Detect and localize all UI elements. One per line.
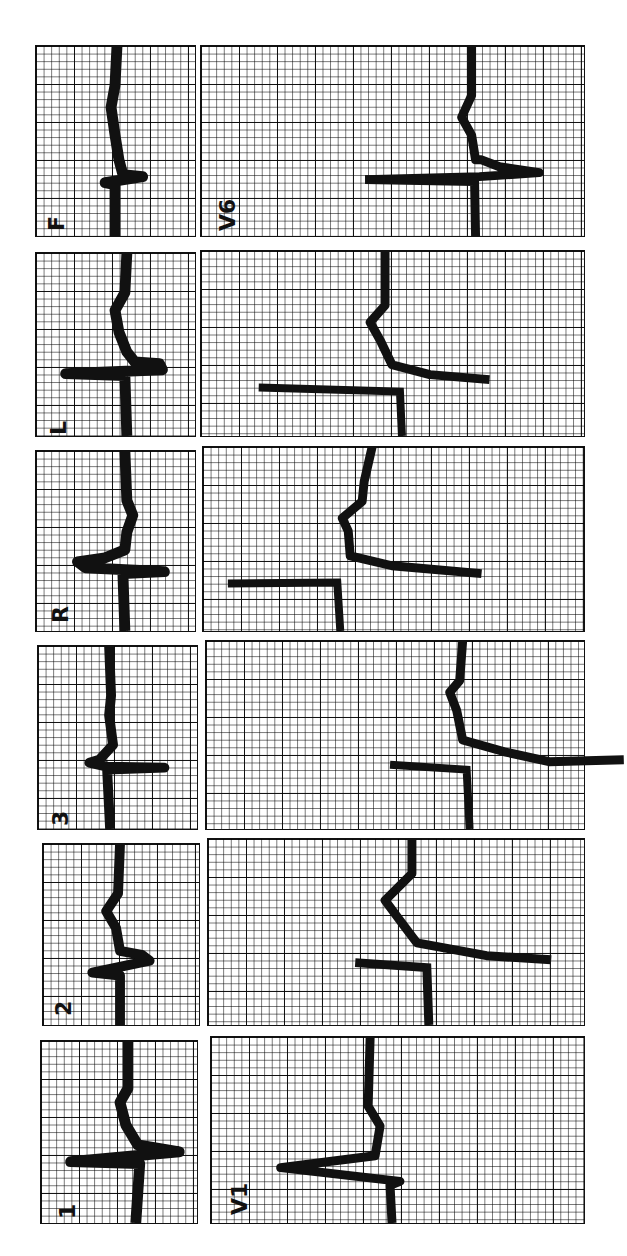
lead-3-strip: 3 xyxy=(37,645,198,830)
lead-label-V1: V1 xyxy=(227,1183,252,1215)
lead-F-strip: F xyxy=(35,45,196,237)
lead-label-2: 2 xyxy=(51,1001,76,1016)
lead-V6-strip: V6 xyxy=(200,45,585,237)
ecg-trace-V6 xyxy=(201,46,584,236)
lead-label-V6: V6 xyxy=(215,199,240,231)
lead-L-strip: L xyxy=(35,252,196,437)
lead-1-strip: 1 xyxy=(40,1040,198,1224)
lead-2-strip: 2 xyxy=(42,843,200,1026)
ecg-trace-L xyxy=(36,253,195,436)
ecg-trace-V4 xyxy=(203,447,584,631)
ecg-trace-1 xyxy=(41,1041,197,1223)
ecg-trace-V2 xyxy=(208,839,584,1025)
lead-V1-strip: V1 xyxy=(210,1036,585,1224)
ecg-trace-2 xyxy=(43,844,199,1025)
lead-R-strip: R xyxy=(35,450,196,632)
lead-V5-strip xyxy=(200,250,585,437)
lead-label-3: 3 xyxy=(48,811,73,826)
ecg-trace-V5 xyxy=(201,251,584,436)
ecg-trace-R xyxy=(36,451,195,631)
ecg-trace-F xyxy=(36,46,195,236)
lead-V2-strip xyxy=(207,838,585,1026)
ecg-trace-3 xyxy=(38,646,197,829)
lead-label-F: F xyxy=(44,216,69,231)
lead-label-L: L xyxy=(46,421,71,435)
lead-V4-strip xyxy=(202,446,585,632)
lead-label-1: 1 xyxy=(55,1204,80,1219)
ecg-trace-V1 xyxy=(211,1037,584,1223)
lead-label-R: R xyxy=(48,606,73,623)
ecg-trace-V3 xyxy=(206,641,584,829)
lead-V3-strip xyxy=(205,640,585,830)
